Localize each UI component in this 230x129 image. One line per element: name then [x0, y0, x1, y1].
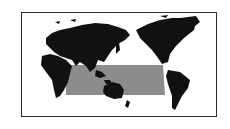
world-map [0, 0, 230, 129]
arctic-islands [55, 15, 168, 24]
japan [116, 42, 120, 54]
south-america [166, 70, 190, 110]
new-zealand [125, 100, 130, 108]
